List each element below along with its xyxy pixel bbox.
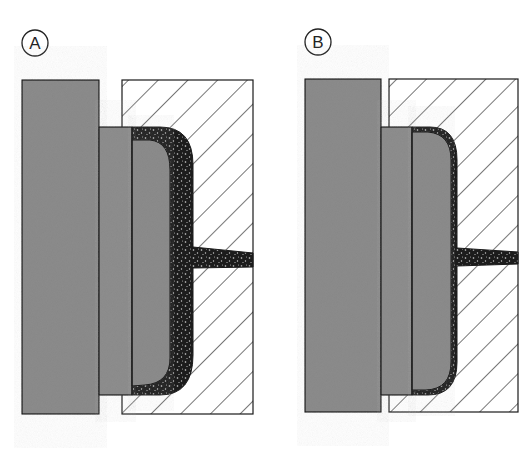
middle-plate <box>381 127 412 395</box>
panel-label-text: A <box>29 34 41 53</box>
panel-b-label: B <box>305 29 331 55</box>
panel-a-label: A <box>22 30 48 56</box>
backing-plate <box>22 80 99 414</box>
backing-plate <box>305 79 381 412</box>
diagram-canvas: A B <box>0 0 528 470</box>
core <box>412 132 451 390</box>
panel-label-text: B <box>312 33 323 52</box>
panel-a: A <box>22 30 253 414</box>
panel-b: B <box>305 29 518 412</box>
core <box>132 140 170 386</box>
middle-plate <box>99 127 132 395</box>
